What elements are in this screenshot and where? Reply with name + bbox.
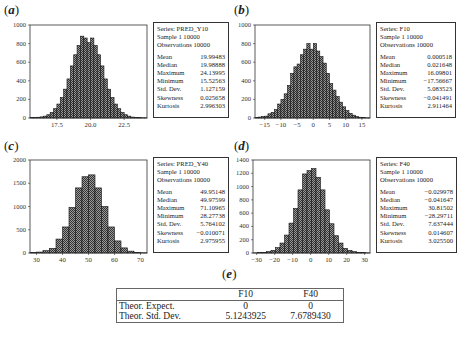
svg-text:17.5: 17.5 xyxy=(51,121,63,128)
column-header: F40 xyxy=(278,289,343,301)
histogram-bar xyxy=(82,177,89,253)
svg-text:400: 400 xyxy=(239,222,249,229)
stat-value: 0.000518 xyxy=(427,53,452,61)
histogram-bar xyxy=(57,104,60,118)
histogram-bar xyxy=(56,239,63,253)
stat-value: 5.083523 xyxy=(427,85,452,93)
stat-name: Std. Dev. xyxy=(157,220,181,228)
histogram-bar xyxy=(77,45,80,118)
svg-text:40: 40 xyxy=(59,256,66,263)
svg-text:200: 200 xyxy=(16,95,26,102)
svg-text:−30: −30 xyxy=(251,256,262,263)
histogram-bar xyxy=(291,73,294,118)
svg-text:15: 15 xyxy=(359,121,366,128)
histogram-bar xyxy=(320,57,323,118)
histogram-bar xyxy=(294,67,297,118)
svg-text:50: 50 xyxy=(85,256,92,263)
histogram-bar xyxy=(323,63,326,118)
stats-row: Kurtosis2.996303 xyxy=(157,102,225,110)
stats-row: Minimum−17.56667 xyxy=(380,77,452,85)
svg-text:30: 30 xyxy=(33,256,40,263)
stat-value: 19.99483 xyxy=(200,53,225,61)
stats-series: Series: F40 xyxy=(380,160,453,168)
stat-name: Maximum xyxy=(380,69,407,77)
histogram-bar xyxy=(339,243,344,253)
stat-value: 15.52563 xyxy=(200,77,225,85)
svg-text:600: 600 xyxy=(239,209,249,216)
svg-text:70: 70 xyxy=(137,256,144,263)
stat-value: 0.014607 xyxy=(428,229,453,237)
stat-name: Std. Dev. xyxy=(380,85,404,93)
stats-row: Skewness0.025658 xyxy=(157,94,225,102)
histogram-bar xyxy=(268,114,271,118)
histogram-bar xyxy=(278,104,281,118)
stat-value: 30.81502 xyxy=(428,204,453,212)
stat-name: Minimum xyxy=(380,212,406,220)
histogram-bar xyxy=(307,171,312,253)
stat-value: 1.127159 xyxy=(200,85,225,93)
stats-row: Median0.021648 xyxy=(380,61,452,69)
histogram-bar xyxy=(289,223,294,253)
histogram-bar xyxy=(310,49,313,118)
stat-name: Median xyxy=(157,61,177,69)
panel-label-a: (a) xyxy=(4,2,19,18)
histogram-bar xyxy=(69,207,76,253)
histogram-bar xyxy=(97,55,100,118)
panel-label-b: (b) xyxy=(234,2,249,18)
svg-text:10: 10 xyxy=(342,121,349,128)
histogram-c: 05001000150020003040506070 xyxy=(30,160,147,253)
panel-label-c: (c) xyxy=(4,138,18,154)
theoretical-table: F10 F40 Theor. Expect. 0 0 Theor. Std. D… xyxy=(116,288,344,323)
stat-name: Minimum xyxy=(157,212,183,220)
histogram-bar xyxy=(349,113,352,118)
svg-text:1000: 1000 xyxy=(13,21,26,28)
histogram-bar xyxy=(124,115,127,118)
histogram-bar xyxy=(121,248,128,253)
histogram-bar xyxy=(108,227,115,253)
histogram-bar xyxy=(63,227,70,253)
svg-text:20: 20 xyxy=(343,256,350,263)
stat-value: −0.041491 xyxy=(424,94,452,102)
histogram-bar xyxy=(342,107,345,118)
svg-text:600: 600 xyxy=(241,58,251,65)
histogram-bar xyxy=(330,84,333,118)
stat-name: Mean xyxy=(380,188,395,196)
svg-text:−10: −10 xyxy=(276,121,287,128)
stat-value: 0.021648 xyxy=(427,61,452,69)
histogram-bar xyxy=(352,115,355,118)
stats-series: Series: PRED_Y10 xyxy=(157,25,225,33)
svg-text:1000: 1000 xyxy=(238,21,251,28)
svg-text:−10: −10 xyxy=(287,256,298,263)
stat-value: 24.13995 xyxy=(200,69,225,77)
stat-name: Std. Dev. xyxy=(380,220,404,228)
histogram-bar xyxy=(343,248,348,253)
histogram-bar xyxy=(121,112,124,118)
svg-text:2000: 2000 xyxy=(13,156,26,163)
svg-text:800: 800 xyxy=(239,196,249,203)
stat-value: 49.97599 xyxy=(200,196,225,204)
svg-text:1400: 1400 xyxy=(236,156,249,163)
svg-text:500: 500 xyxy=(16,226,26,233)
stats-row: Std. Dev.1.127159 xyxy=(157,85,225,93)
histogram-bar xyxy=(54,109,57,118)
histogram-bar xyxy=(304,49,307,118)
stats-row: Mean0.000518 xyxy=(380,53,452,61)
svg-text:−20: −20 xyxy=(269,256,280,263)
histogram-bar xyxy=(87,43,90,118)
svg-text:−15: −15 xyxy=(259,121,270,128)
stat-value: −17.56667 xyxy=(424,77,452,85)
stat-value: 28.27738 xyxy=(200,212,225,220)
svg-text:0: 0 xyxy=(312,121,316,128)
stats-row: Skewness−0.010071 xyxy=(157,229,225,237)
stat-name: Skewness xyxy=(380,229,406,237)
stats-row: Mean49.95148 xyxy=(157,188,225,196)
stats-box-a: Series: PRED_Y10 Sample 1 10000 Observat… xyxy=(153,22,229,118)
stat-name: Mean xyxy=(380,53,395,61)
stat-value: 2.975955 xyxy=(200,237,225,245)
stats-sample: Sample 1 10000 xyxy=(157,33,225,41)
histogram-bar xyxy=(317,51,320,118)
histogram-a: 0200400600800100017.520.022.5 xyxy=(30,25,147,118)
svg-text:20.0: 20.0 xyxy=(85,121,97,128)
histogram-bar xyxy=(298,190,303,253)
stats-box-d: Series: F40 Sample 1 10000 Observations … xyxy=(376,157,457,253)
